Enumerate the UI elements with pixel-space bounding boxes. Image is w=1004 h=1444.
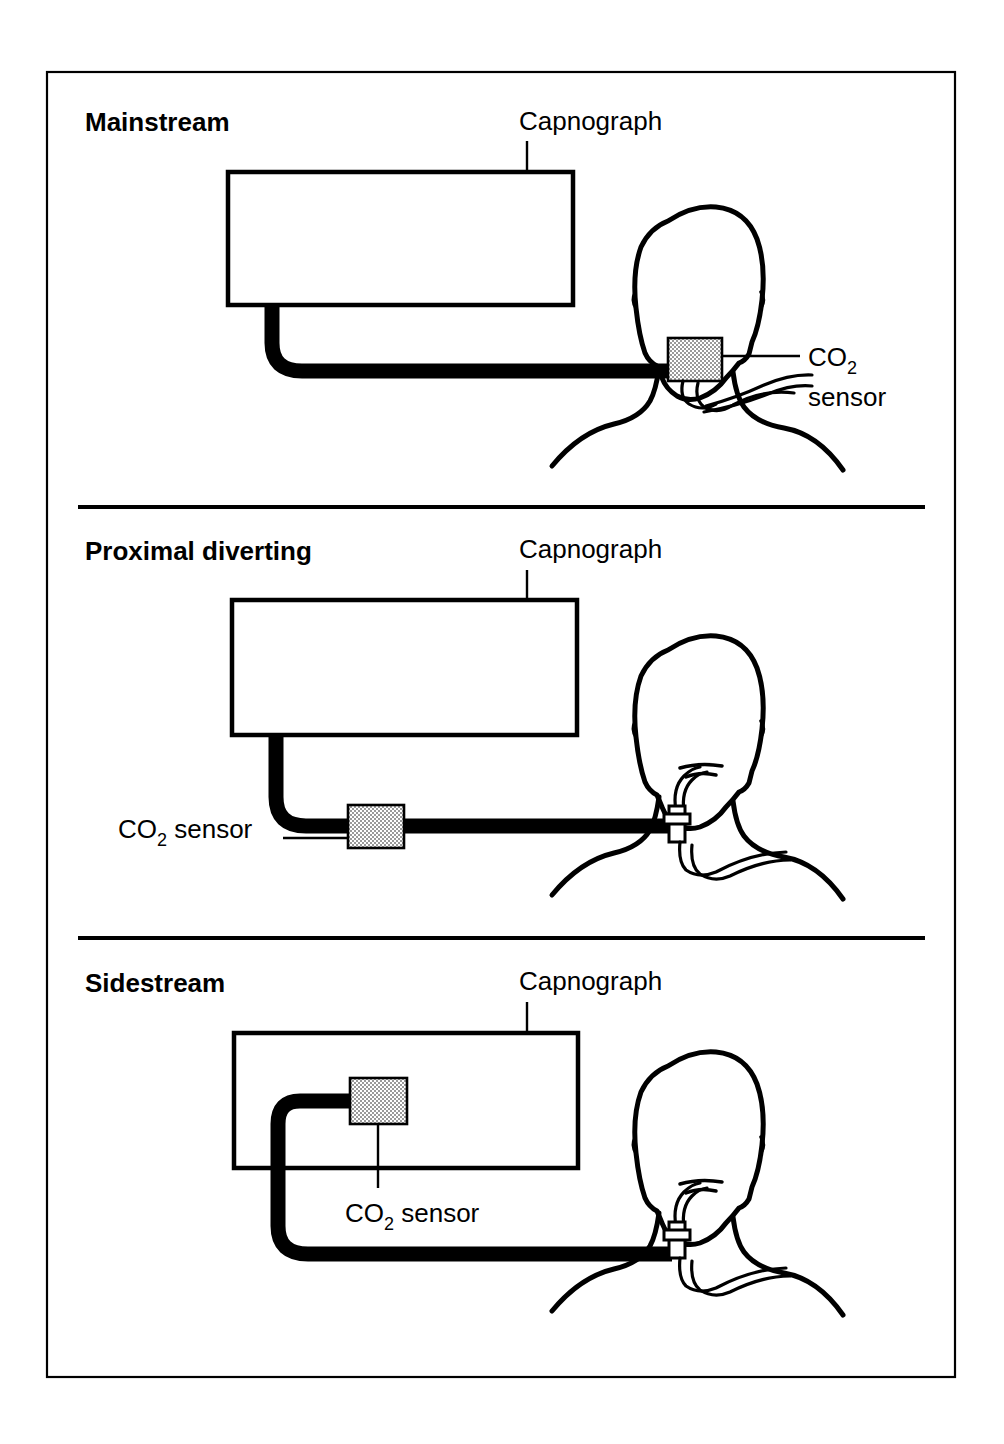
co2-sensor-box-proximal [348,805,404,848]
co2-sensor-box-mainstream [668,338,722,381]
capnograph-label-sidestream: Capnograph [519,966,662,996]
panel-title-mainstream: Mainstream [85,107,230,137]
airway-connector-collar-sidestream [664,1230,690,1240]
panel-title-sidestream: Sidestream [85,968,225,998]
panel-title-proximal-diverting: Proximal diverting [85,536,312,566]
capnograph-box-proximal [232,600,577,735]
capnography-figure: Mainstream Capnograph CO2 sensor Proxima… [0,0,1004,1444]
capnograph-label-proximal: Capnograph [519,534,662,564]
airway-connector-collar-proximal [664,814,690,824]
capnograph-box-mainstream [228,172,573,305]
co2-sensor-label-line2-mainstream: sensor [808,382,886,412]
co2-sensor-box-sidestream [350,1078,407,1124]
capnograph-label-mainstream: Capnograph [519,106,662,136]
